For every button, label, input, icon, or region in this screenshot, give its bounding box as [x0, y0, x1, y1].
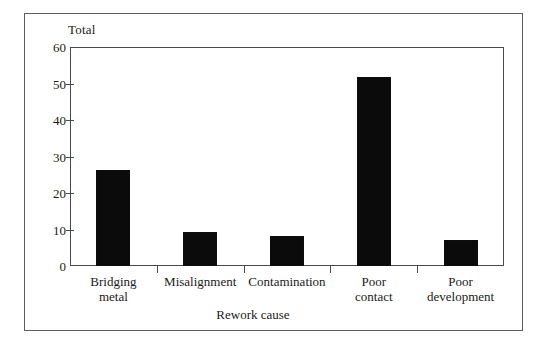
- x-tick-mark: [417, 266, 418, 273]
- y-axis-tick-labels: 0102030405060: [30, 0, 66, 351]
- y-tick-label: 30: [36, 150, 66, 163]
- x-tick-mark: [157, 266, 158, 273]
- plot-area: [70, 47, 504, 266]
- y-tick-label: 40: [36, 114, 66, 127]
- y-tick-label: 0: [36, 260, 66, 273]
- bar: [270, 236, 304, 266]
- bar: [183, 232, 217, 266]
- y-tick-label: 60: [36, 41, 66, 54]
- x-axis-title-text: Rework cause: [216, 307, 289, 322]
- x-category-label: Misalignment: [157, 274, 244, 289]
- bar: [357, 77, 391, 266]
- y-tick-mark: [66, 84, 74, 85]
- bar: [444, 240, 478, 266]
- bar: [96, 170, 130, 266]
- x-tick-mark: [330, 266, 331, 273]
- y-tick-mark: [66, 120, 74, 121]
- x-category-label: Bridging metal: [70, 274, 157, 304]
- x-category-label: Contamination: [244, 274, 331, 289]
- y-axis-title: Total: [68, 22, 96, 38]
- y-tick-mark: [66, 230, 74, 231]
- y-tick-label: 10: [36, 223, 66, 236]
- y-tick-mark: [66, 157, 74, 158]
- x-category-label: Poor development: [417, 274, 504, 304]
- y-tick-label: 50: [36, 77, 66, 90]
- bar-chart-figure: Total 0102030405060 Rework cause Bridgin…: [0, 0, 544, 351]
- x-axis-title: Rework cause: [0, 307, 544, 323]
- y-tick-mark: [66, 193, 74, 194]
- x-category-label: Poor contact: [330, 274, 417, 304]
- x-tick-mark: [244, 266, 245, 273]
- y-tick-label: 20: [36, 187, 66, 200]
